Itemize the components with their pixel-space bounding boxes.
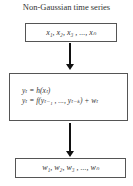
autoregressive-equation: yₜ = f(yₜ₋₁ , ..., yₜ₋ₖ) + wₜ	[22, 96, 127, 106]
transform-equation: yₜ = h(xₜ)	[22, 86, 127, 96]
input-series-box: x₁, x₂, x₃ , ..., xₙ	[25, 23, 117, 42]
arrow-down-icon	[69, 43, 71, 65]
input-series-label: x₁, x₂, x₃ , ..., xₙ	[46, 28, 96, 37]
output-series-box: w₁, w₂, w₃ , ..., wₙ	[15, 158, 126, 178]
output-series-label: w₁, w₂, w₃ , ..., wₙ	[42, 163, 99, 172]
arrow-down-icon	[69, 123, 71, 152]
diagram-title: Non-Gaussian time series	[0, 2, 133, 12]
model-box: yₜ = h(xₜ) yₜ = f(yₜ₋₁ , ..., yₜ₋ₖ) + wₜ	[9, 73, 128, 121]
